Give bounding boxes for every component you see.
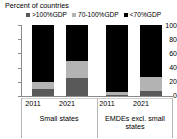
- bar-segment-lt70: [66, 25, 88, 61]
- bar-segment-gt100: [140, 91, 162, 96]
- chart-legend: >100%GDP 70-100%GDP <70%GDP: [26, 11, 161, 18]
- chart-title: Percent of countries: [5, 1, 69, 10]
- bar-small-states-2021[interactable]: [66, 25, 88, 96]
- legend-item-gt100: >100%GDP: [26, 11, 67, 18]
- legend-item-lt70: <70%GDP: [124, 11, 161, 18]
- bar-segment-lt70: [32, 25, 54, 82]
- bar-segment-gt100: [32, 89, 54, 96]
- bar-segment-gt100: [66, 78, 88, 96]
- group-label-small-states: Small states: [22, 115, 96, 123]
- legend-label: <70%GDP: [130, 11, 161, 18]
- bar-segment-70-100: [32, 82, 54, 89]
- group-separator: [172, 98, 173, 138]
- bar-group-container: [21, 25, 173, 96]
- legend-label: 70-100%GDP: [78, 11, 119, 18]
- x-axis-line: [21, 96, 173, 97]
- bar-emdes-2021[interactable]: [140, 25, 162, 96]
- bar-emdes-2011[interactable]: [106, 25, 128, 96]
- x-tick-label-small-2021: 2021: [47, 100, 87, 108]
- bar-segment-gt100: [106, 95, 128, 96]
- chart-container: Percent of countries >100%GDP 70-100%GDP…: [0, 0, 177, 139]
- x-tick-label-emdes-2021: 2021: [121, 100, 161, 108]
- bar-segment-lt70: [140, 25, 162, 77]
- bar-segment-70-100: [66, 61, 88, 79]
- bar-small-states-2011[interactable]: [32, 25, 54, 96]
- bar-segment-70-100: [140, 77, 162, 91]
- bar-segment-lt70: [106, 25, 128, 92]
- legend-swatch-icon: [72, 13, 76, 17]
- legend-item-70-100: 70-100%GDP: [72, 11, 119, 18]
- plot-area: [21, 25, 173, 96]
- legend-swatch-icon: [124, 13, 128, 17]
- legend-swatch-icon: [26, 13, 30, 17]
- legend-label: >100%GDP: [32, 11, 67, 18]
- group-label-emdes: EMDEs excl. small states: [98, 115, 172, 132]
